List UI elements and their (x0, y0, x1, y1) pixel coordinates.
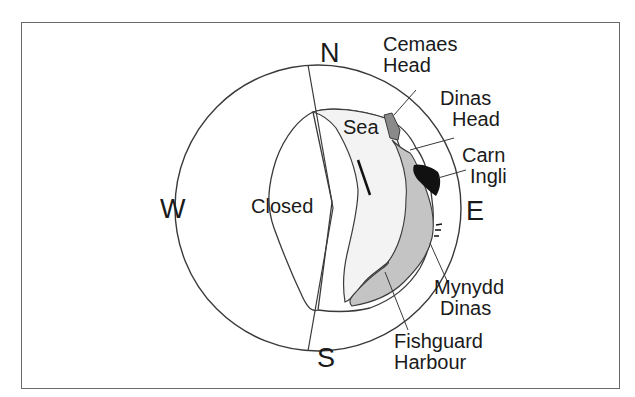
compass-north-label: N (320, 40, 340, 67)
fishguard-harbour-line2: Harbour (394, 352, 483, 373)
compass-west-label: W (160, 196, 185, 223)
dinas-head-label: Dinas Head (440, 88, 500, 130)
compass-south-label: S (317, 345, 335, 372)
mynydd-dinas-marks (434, 224, 442, 236)
viewshed-diagram (0, 0, 635, 397)
fishguard-harbour-label: Fishguard Harbour (394, 331, 483, 373)
carn-ingli-label: Carn Ingli (462, 145, 507, 187)
cemaes-head-label: Cemaes Head (383, 34, 457, 76)
cemaes-head-line2: Head (383, 55, 457, 76)
compass-east-label: E (466, 198, 484, 225)
dinas-head-line2: Head (440, 109, 500, 130)
mynydd-dinas-label: Mynydd Dinas (434, 277, 504, 319)
mynydd-dinas-line2: Dinas (434, 298, 504, 319)
cemaes-head-line1: Cemaes (383, 34, 457, 55)
sea-region-label: Sea (343, 117, 379, 138)
carn-ingli-line1: Carn (462, 145, 507, 166)
mynydd-dinas-line1: Mynydd (434, 277, 504, 298)
fishguard-harbour-line1: Fishguard (394, 331, 483, 352)
closed-region-label: Closed (251, 196, 313, 217)
dinas-head-line1: Dinas (440, 88, 500, 109)
carn-ingli-line2: Ingli (462, 166, 507, 187)
